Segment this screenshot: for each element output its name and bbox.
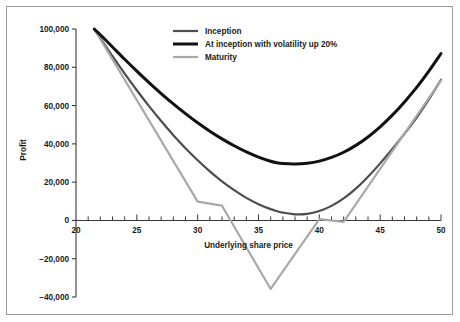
y-axis-tick-label: 40,000: [44, 140, 69, 149]
y-axis-tick-label: 100,000: [39, 25, 69, 34]
x-axis-tick-label: 45: [376, 226, 386, 235]
chart-plot-area: −40,000−20,000020,00040,00060,00080,0001…: [0, 0, 460, 322]
legend-label: At inception with volatility up 20%: [205, 40, 338, 49]
x-axis-tick-label: 35: [254, 226, 264, 235]
series-line: [94, 29, 441, 214]
y-axis-tick-label: 60,000: [44, 102, 69, 111]
chart-legend: InceptionAt inception with volatility up…: [173, 27, 338, 62]
x-axis-title: Underlying share price: [204, 241, 293, 250]
axes-group: [72, 29, 441, 297]
x-axis-tick-label: 30: [193, 226, 203, 235]
y-axis-title: Profit: [19, 139, 28, 161]
y-axis-tick-label: 80,000: [44, 63, 69, 72]
x-axis-tick-label: 50: [436, 226, 446, 235]
y-axis-tick-label: −40,000: [39, 293, 69, 302]
x-axis-tick-label: 40: [315, 226, 325, 235]
legend-label: Inception: [205, 27, 241, 36]
series-line: [94, 29, 441, 164]
legend-label: Maturity: [205, 53, 237, 62]
y-axis-tick-label: 0: [64, 216, 69, 225]
chart-figure: −40,000−20,000020,00040,00060,00080,0001…: [0, 0, 460, 322]
axis-labels-group: −40,000−20,000020,00040,00060,00080,0001…: [19, 25, 446, 302]
y-axis-tick-label: −20,000: [39, 255, 69, 264]
x-axis-tick-label: 20: [71, 226, 81, 235]
y-axis-tick-label: 20,000: [44, 178, 69, 187]
x-axis-tick-label: 25: [132, 226, 142, 235]
